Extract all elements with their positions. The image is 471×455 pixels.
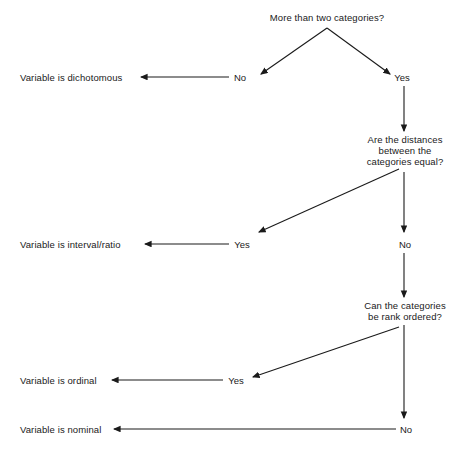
edge-q1-to-yes <box>327 28 390 74</box>
edge-label-q3-no: No <box>400 424 412 435</box>
outcome-node-interval-ratio: Variable is interval/ratio <box>20 239 121 250</box>
flowchart-canvas: More than two categories? Are the distan… <box>0 0 471 455</box>
edge-q1-to-no <box>261 28 327 74</box>
flowchart-connectors <box>0 0 471 455</box>
edge-label-q2-yes: Yes <box>234 239 250 250</box>
question-node-rank-ordered: Can the categories be rank ordered? <box>364 300 446 322</box>
question-node-distances-equal: Are the distances between the categories… <box>367 134 444 167</box>
question-text-line: Are the distances <box>367 134 444 145</box>
outcome-node-dichotomous: Variable is dichotomous <box>20 72 122 83</box>
outcome-node-nominal: Variable is nominal <box>20 424 101 435</box>
edge-label-q2-no: No <box>399 239 411 250</box>
edge-label-q1-no: No <box>234 72 246 83</box>
question-text-line: More than two categories? <box>270 12 384 23</box>
edge-label-q1-yes: Yes <box>394 72 410 83</box>
question-text-line: Can the categories <box>364 300 446 311</box>
question-node-more-than-two-categories: More than two categories? <box>270 12 384 23</box>
question-text-line: be rank ordered? <box>364 311 446 322</box>
edge-q2-to-yes <box>259 169 399 232</box>
edge-label-q3-yes: Yes <box>228 375 244 386</box>
outcome-node-ordinal: Variable is ordinal <box>20 375 97 386</box>
question-text-line: between the <box>367 145 444 156</box>
question-text-line: categories equal? <box>367 156 444 167</box>
edge-q3-to-yes <box>253 327 399 377</box>
